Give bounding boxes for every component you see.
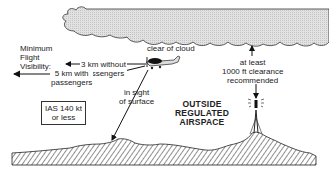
label-line: 5 km with — [51, 69, 92, 78]
cloud-shape — [63, 7, 329, 46]
clearance-label: at least 1000 ft clearance recommended — [222, 58, 283, 85]
aircraft-icon — [146, 56, 180, 69]
label-line: 3 km without — [81, 60, 126, 69]
min-vis-line: Minimum — [20, 44, 52, 53]
vis-pax-label: 5 km with passengers — [50, 69, 93, 87]
min-vis-line: Flight — [20, 53, 52, 62]
min-vis-line: Visibility: — [20, 62, 52, 71]
clear-of-cloud-label: clear of cloud — [147, 44, 195, 53]
diagram-canvas — [0, 0, 329, 179]
sight-label: in sight of surface — [119, 88, 154, 106]
label-line: passengers — [51, 78, 92, 87]
label-line: recommended — [222, 76, 283, 85]
label-line: 1000 ft clearance — [222, 67, 283, 76]
airspace-label: OUTSIDE REGULATED AIRSPACE — [175, 100, 229, 127]
label-line: or less — [45, 113, 82, 122]
label-line: AIRSPACE — [175, 118, 229, 127]
ias-box: IAS 140 kt or less — [41, 101, 86, 125]
hatched-terrain — [12, 132, 316, 165]
label-line: of surface — [119, 97, 154, 106]
label-line: IAS 140 kt — [45, 104, 82, 113]
min-vis-label: Minimum Flight Visibility: — [20, 44, 52, 71]
label-line: at least — [222, 58, 283, 67]
label-line: in sight — [119, 88, 154, 97]
radio-mast-icon — [248, 99, 264, 134]
